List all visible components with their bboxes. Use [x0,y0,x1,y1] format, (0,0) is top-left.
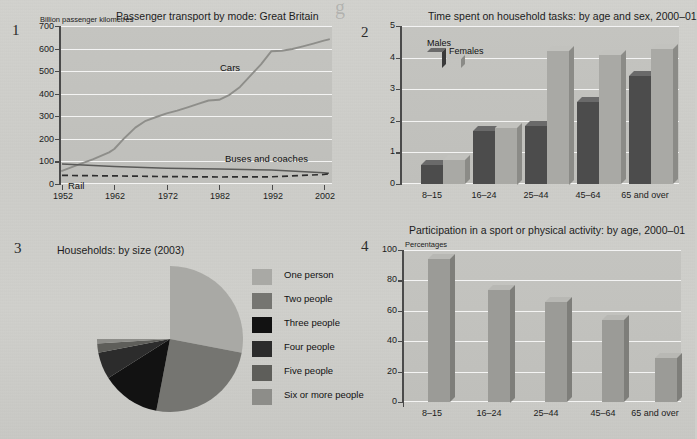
plot-area-4 [403,250,681,402]
legend-label-two-people: Two people [284,293,333,304]
y-tick-400: 400 [26,89,54,99]
legend-row: Two people [252,290,347,314]
x-tick-1962: 1962 [94,191,136,201]
bar-participation-25-44 [545,302,567,402]
panel-number-3: 3 [14,240,22,257]
line-buses [62,164,329,173]
y-tick-200: 200 [26,134,54,144]
line-cars [62,39,329,171]
legend-row: Five people [252,362,347,386]
legend-row: One person [252,266,347,290]
x-tick-1952: 1952 [42,191,84,201]
bar-participation-45-64 [602,320,624,402]
legend-swatch-two-people [252,293,272,309]
legend-row: Four people [252,338,347,362]
legend-3: One person Two people Three people Four … [252,266,347,410]
bar-participation-16-24 [488,290,510,403]
panel-passenger-transport: 1 Passenger transport by mode: Great Bri… [0,0,348,216]
x2-tick-65-over: 65 and over [605,190,685,200]
x4-tick-8-15: 8–15 [407,408,457,418]
series-label-rail: Rail [68,180,84,191]
y4-tick-100: 100 [365,244,397,254]
y2-tick-2: 2 [375,115,395,125]
x4-tick-65-over: 65 and over [619,408,691,418]
x4-tick-25-44: 25–44 [521,408,571,418]
legend-swatch-three-people [252,317,272,333]
y2-tick-0: 0 [375,178,395,188]
y-tick-300: 300 [26,111,54,121]
series-label-buses: Buses and coaches [225,153,308,164]
panel-title-4: Participation in a sport or physical act… [409,224,685,236]
legend-label-five-people: Five people [284,365,333,376]
legend-swatch-males [427,52,442,68]
y2-tick-1: 1 [375,146,395,156]
panel-number-1: 1 [12,22,20,39]
legend-swatch-four-people [252,341,272,357]
y-axis-2 [400,26,402,185]
y-tick-700: 700 [26,21,54,31]
legend-row: Six or more people [252,386,347,410]
bar-males-25-44 [525,126,547,184]
y2-tick-5: 5 [375,20,395,30]
line-rail [62,174,329,177]
y-axis-4 [402,250,404,402]
y4-tick-0: 0 [365,396,397,406]
legend-swatch-six-or-more [252,389,272,405]
panel-households-by-size: 3 Households: by size (2003) One [0,216,347,439]
x-tick-1972: 1972 [147,191,189,201]
plot-area-1: Cars Buses and coaches [60,26,332,184]
legend-label-four-people: Four people [284,341,335,352]
legend-swatch-females [446,59,461,68]
bar-males-45-64 [577,102,599,184]
legend-swatch-one-person [252,269,272,285]
y2-tick-3: 3 [375,83,395,93]
legend-label-males: Males [427,38,451,48]
legend-swatch-five-people [252,365,272,381]
x-tick-1982: 1982 [199,191,241,201]
x-tick-2002: 2002 [304,191,346,201]
y4-tick-40: 40 [365,335,397,345]
bar-females-8-15 [443,160,465,184]
y4-tick-20: 20 [365,366,397,376]
pie-chart-households [97,266,243,412]
panel-sport-participation: 4 Participation in a sport or physical a… [347,216,695,439]
plot-area-2: Males Females [401,26,679,184]
y-axis-label-4: Percentages [405,240,447,249]
y-tick-600: 600 [26,44,54,54]
y4-tick-80: 80 [365,274,397,284]
bar-females-45-64 [599,55,621,184]
bar-females-16-24 [495,128,517,185]
y-tick-500: 500 [26,66,54,76]
y4-tick-60: 60 [365,305,397,315]
bar-participation-8-15 [428,259,450,402]
y-axis-label-1: Billion passenger kilometres [40,15,133,24]
bar-females-65-over [651,49,673,184]
series-label-cars: Cars [220,62,240,73]
panel-title-1: Passenger transport by mode: Great Brita… [116,10,319,22]
bar-males-8-15 [421,165,443,184]
x-tick-1992: 1992 [252,191,294,201]
bar-participation-65-over [655,358,677,402]
y2-tick-4: 4 [375,52,395,62]
legend-row: Three people [252,314,347,338]
bar-males-16-24 [473,131,495,184]
y-tick-100: 100 [26,156,54,166]
bar-males-65-over [629,76,651,184]
panel-household-tasks: 2 Time spent on household tasks: by age … [347,0,695,216]
panel-number-2: 2 [361,24,369,41]
legend-label-three-people: Three people [284,317,340,328]
y-tick-0: 0 [26,179,54,189]
bar-females-25-44 [547,51,569,185]
legend-label-one-person: One person [284,269,334,280]
legend-2: Males Females [423,40,543,74]
panel-title-3: Households: by size (2003) [57,244,184,256]
pie-slice-one-person [170,266,243,353]
x4-tick-16-24: 16–24 [464,408,514,418]
panel-title-2: Time spent on household tasks: by age an… [428,10,697,22]
